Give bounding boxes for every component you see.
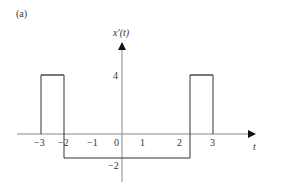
y-tick-neg2: −2 [108,160,119,171]
panel-label: (a) [16,8,27,20]
x-tick-2: 2 [177,137,182,148]
y-axis-label: x′(t) [112,27,130,39]
x-tick-neg2: −2 [58,137,69,148]
y-axis-arrow-icon [118,42,126,50]
x-axis-arrow-icon [248,130,256,138]
signal-plot: (a) x′(t) t 4 −2 −3 −2 −1 0 1 2 3 [0,0,286,190]
x-tick-3: 3 [210,137,215,148]
x-tick-neg1: −1 [87,137,98,148]
y-tick-4: 4 [113,70,118,81]
x-tick-1: 1 [140,137,145,148]
x-tick-0: 0 [114,137,119,148]
x-axis-label: t [253,141,256,152]
x-tick-neg3: −3 [34,137,45,148]
